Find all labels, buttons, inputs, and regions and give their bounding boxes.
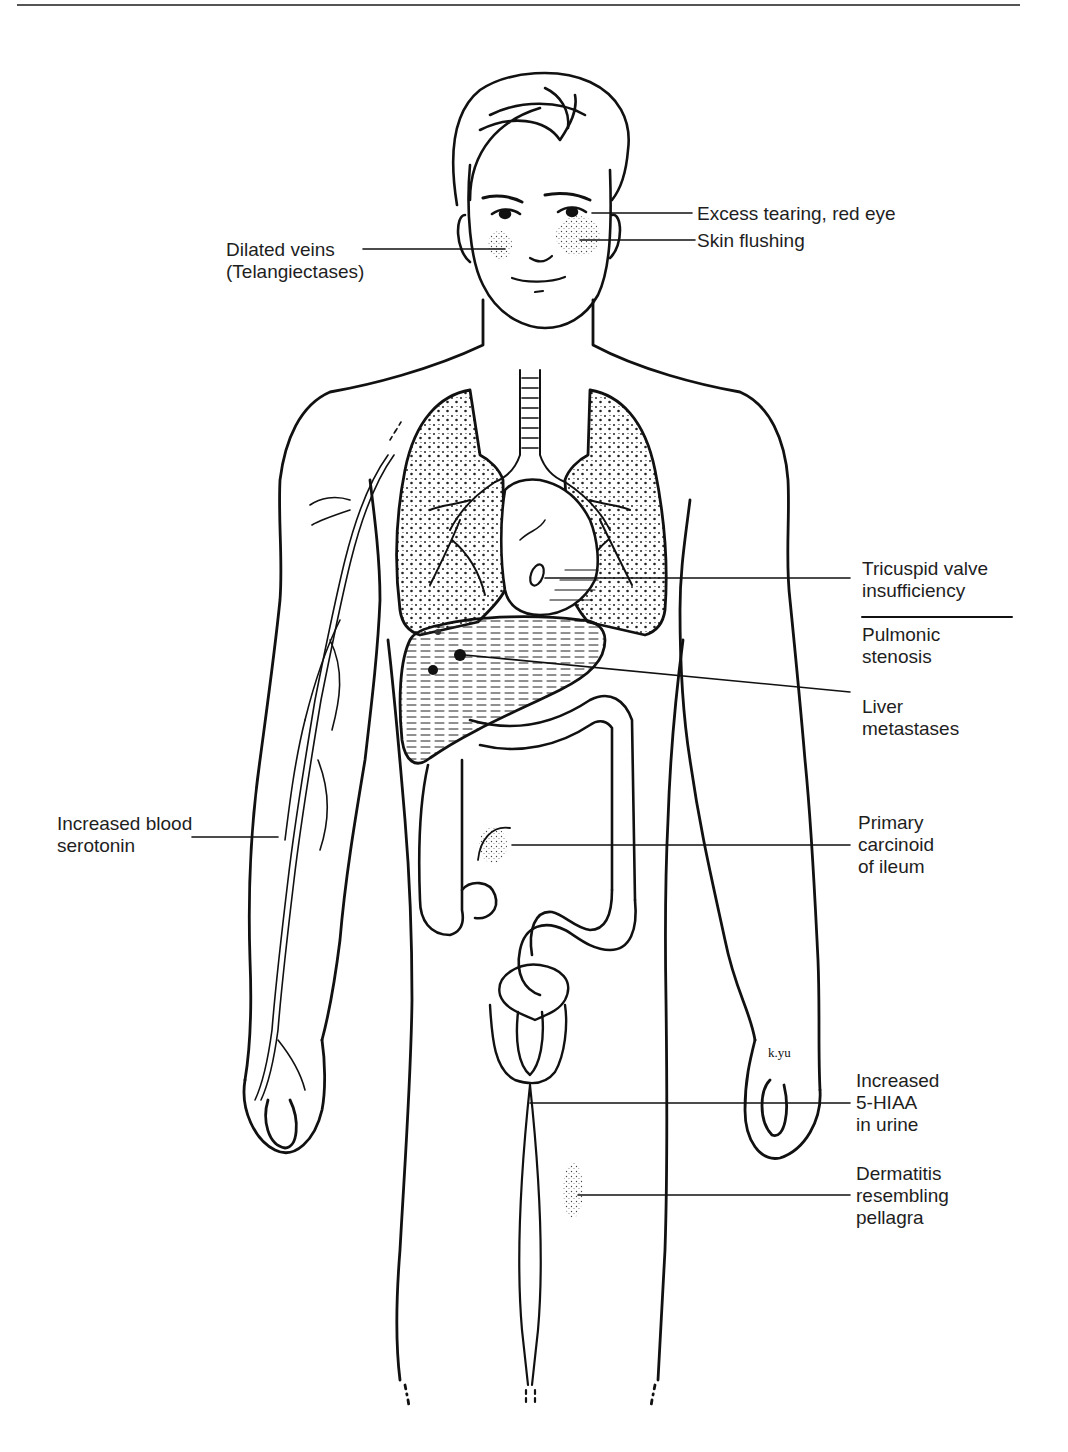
liver — [400, 617, 605, 763]
dermatitis-stipple — [563, 1162, 583, 1218]
body-outline — [244, 300, 820, 1406]
label-line: Excess tearing, red eye — [697, 203, 896, 225]
label-line: Dilated veins — [226, 239, 364, 261]
label-line: stenosis — [862, 646, 940, 668]
label-excess-tearing: Excess tearing, red eye — [697, 203, 896, 225]
label-line: Skin flushing — [697, 230, 805, 252]
label-line: Increased — [856, 1070, 939, 1092]
label-tricuspid: Tricuspid valve insufficiency — [862, 558, 988, 602]
label-line: Tricuspid valve — [862, 558, 988, 580]
label-line: carcinoid — [858, 834, 934, 856]
label-line: in urine — [856, 1114, 939, 1136]
label-pulmonic: Pulmonic stenosis — [862, 624, 940, 668]
bladder — [490, 965, 568, 1084]
label-line: of ileum — [858, 856, 934, 878]
label-line: resembling — [856, 1185, 949, 1207]
label-hiaa-urine: Increased 5-HIAA in urine — [856, 1070, 939, 1136]
label-line: Pulmonic — [862, 624, 940, 646]
trachea — [495, 370, 565, 482]
label-line: metastases — [862, 718, 959, 740]
label-line: insufficiency — [862, 580, 988, 602]
label-line: Liver — [862, 696, 959, 718]
label-carcinoid-ileum: Primary carcinoid of ileum — [858, 812, 934, 878]
label-dilated-veins: Dilated veins (Telangiectases) — [226, 239, 364, 283]
legs-midline — [519, 1085, 541, 1402]
label-blood-serotonin: Increased blood serotonin — [57, 813, 192, 857]
label-line: Dermatitis — [856, 1163, 949, 1185]
label-line: 5-HIAA — [856, 1092, 939, 1114]
label-line: Increased blood — [57, 813, 192, 835]
label-line: (Telangiectases) — [226, 261, 364, 283]
label-line: pellagra — [856, 1207, 949, 1229]
arm-veins — [255, 422, 401, 1100]
label-line: serotonin — [57, 835, 192, 857]
artist-signature: k.yu — [768, 1045, 791, 1061]
label-dermatitis: Dermatitis resembling pellagra — [856, 1163, 949, 1229]
label-skin-flushing: Skin flushing — [697, 230, 805, 252]
head — [453, 73, 628, 328]
label-line: Primary — [858, 812, 934, 834]
label-liver: Liver metastases — [862, 696, 959, 740]
